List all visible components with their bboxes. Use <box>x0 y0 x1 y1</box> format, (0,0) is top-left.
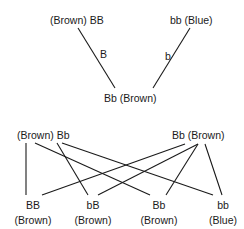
cross1-gamete-left: B <box>100 48 107 60</box>
cross2-parent-left: (Brown) Bb <box>17 129 70 141</box>
connector-lines <box>0 0 244 229</box>
line-parent-left-to-offspring <box>78 28 115 88</box>
offspring-phenotype: (Brown) <box>15 214 52 226</box>
offspring-genotype: BB <box>26 199 40 211</box>
offspring-phenotype: (Brown) <box>75 214 112 226</box>
cross1-parent-right: bb (Blue) <box>170 14 213 26</box>
cross1-gamete-right: b <box>165 50 171 62</box>
offspring-phenotype: (Blue) <box>209 214 237 226</box>
cross1-offspring: Bb (Brown) <box>104 92 157 104</box>
offspring-genotype: bB <box>87 199 100 211</box>
cross2-parent-right: Bb (Brown) <box>172 129 225 141</box>
line-parent-right-to-offspring <box>153 28 190 88</box>
offspring-genotype: bb <box>217 199 229 211</box>
offspring-phenotype: (Brown) <box>141 214 178 226</box>
cross1-parent-left: (Brown) BB <box>50 14 104 26</box>
offspring-genotype: Bb <box>153 199 166 211</box>
